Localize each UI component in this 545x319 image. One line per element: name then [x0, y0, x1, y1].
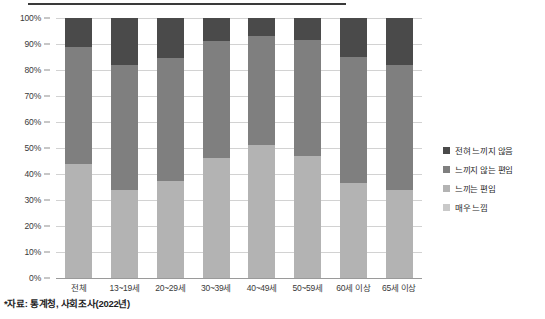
- bar-segment: [111, 65, 138, 190]
- x-axis-tick-label: 65세 이상: [376, 281, 422, 293]
- bar-group: [294, 18, 321, 278]
- legend-swatch-icon: [443, 185, 450, 192]
- bar-segment: [157, 181, 184, 279]
- y-axis-tick-mark: [44, 278, 50, 279]
- legend-label: 느끼는 편임: [455, 182, 496, 194]
- bar-group: [65, 18, 92, 278]
- legend-label: 전혀 느끼지 않음: [455, 144, 513, 156]
- bar-segment: [157, 58, 184, 180]
- bar-segment: [65, 47, 92, 164]
- bar-group: [157, 18, 184, 278]
- bar-segment: [65, 164, 92, 278]
- y-axis-tick-mark: [44, 70, 50, 71]
- y-axis-tick-label: 70%: [25, 91, 41, 101]
- bar-group: [386, 18, 413, 278]
- y-axis-tick-label: 0%: [29, 273, 41, 283]
- bar-segment: [386, 18, 413, 65]
- legend-item[interactable]: 느끼는 편임: [443, 182, 543, 194]
- bar-segment: [203, 41, 230, 158]
- legend-swatch-icon: [443, 204, 450, 211]
- bar-segment: [65, 18, 92, 47]
- y-axis-tick-label: 30%: [25, 195, 41, 205]
- legend-swatch-icon: [443, 147, 450, 154]
- legend-label: 느끼지 않는 편임: [455, 163, 513, 175]
- x-axis-tick-label: 30~39세: [193, 281, 239, 293]
- bar-series-layer: [56, 18, 422, 278]
- bar-segment: [386, 65, 413, 190]
- x-axis-tick-label: 20~29세: [148, 281, 194, 293]
- bar-group: [340, 18, 367, 278]
- bar-group: [203, 18, 230, 278]
- legend-item[interactable]: 느끼지 않는 편임: [443, 163, 543, 175]
- x-axis-tick-label: 13~19세: [102, 281, 148, 293]
- bar-segment: [111, 18, 138, 65]
- bar-segment: [111, 190, 138, 278]
- legend-item[interactable]: 전혀 느끼지 않음: [443, 144, 543, 156]
- y-axis-tick-mark: [44, 148, 50, 149]
- bar-segment: [203, 18, 230, 41]
- gridline: [56, 278, 422, 279]
- y-axis-tick-mark: [44, 96, 50, 97]
- bar-segment: [248, 36, 275, 145]
- bar-segment: [157, 18, 184, 58]
- bar-segment: [294, 40, 321, 156]
- y-axis-tick-label: 100%: [20, 13, 41, 23]
- y-axis-tick-label: 50%: [25, 143, 41, 153]
- top-divider-rule: [28, 3, 346, 5]
- legend-label: 매우 느낌: [455, 201, 488, 213]
- x-axis-tick-label: 50~59세: [285, 281, 331, 293]
- chart-legend: 전혀 느끼지 않음느끼지 않는 편임느끼는 편임매우 느낌: [443, 144, 543, 220]
- y-axis-tick-mark: [44, 122, 50, 123]
- x-axis-tick-label: 전체: [56, 281, 102, 293]
- bar-segment: [203, 158, 230, 278]
- y-axis-tick-mark: [44, 18, 50, 19]
- y-axis: 100%90%80%70%60%50%40%30%20%10%0%: [0, 18, 50, 278]
- y-axis-tick-label: 20%: [25, 221, 41, 231]
- bar-group: [248, 18, 275, 278]
- chart-plot-area: [56, 18, 422, 278]
- legend-swatch-icon: [443, 166, 450, 173]
- bar-group: [111, 18, 138, 278]
- bar-segment: [340, 57, 367, 183]
- y-axis-tick-label: 90%: [25, 39, 41, 49]
- bar-segment: [294, 156, 321, 278]
- y-axis-tick-label: 40%: [25, 169, 41, 179]
- bar-segment: [340, 183, 367, 278]
- y-axis-tick-mark: [44, 252, 50, 253]
- bar-segment: [294, 18, 321, 40]
- bar-segment: [248, 145, 275, 278]
- y-axis-tick-mark: [44, 226, 50, 227]
- y-axis-tick-label: 60%: [25, 117, 41, 127]
- legend-item[interactable]: 매우 느낌: [443, 201, 543, 213]
- y-axis-tick-label: 10%: [25, 247, 41, 257]
- x-axis-tick-label: 60세 이상: [331, 281, 377, 293]
- bar-segment: [386, 190, 413, 278]
- x-axis-tick-label: 40~49세: [239, 281, 285, 293]
- y-axis-tick-mark: [44, 200, 50, 201]
- x-axis: 전체13~19세20~29세30~39세40~49세50~59세60세 이상65…: [56, 281, 422, 293]
- bar-segment: [340, 18, 367, 57]
- y-axis-tick-label: 80%: [25, 65, 41, 75]
- y-axis-tick-mark: [44, 44, 50, 45]
- y-axis-tick-mark: [44, 174, 50, 175]
- source-footnote: *자료: 통계청, 사회조사(2022년): [4, 296, 130, 310]
- bar-segment: [248, 18, 275, 36]
